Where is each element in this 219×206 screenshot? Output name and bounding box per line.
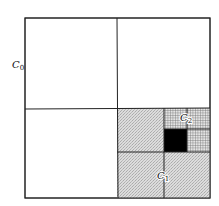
leaf-cell: [164, 129, 187, 152]
label-c0: C0: [12, 59, 24, 72]
quadtree-diagram: C0 C2 C1: [0, 0, 219, 206]
